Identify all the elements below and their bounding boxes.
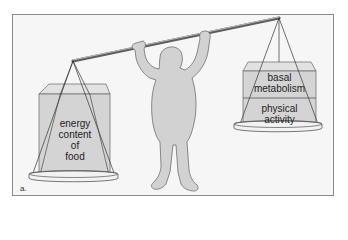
person-silhouette bbox=[132, 31, 210, 191]
label-line: food bbox=[40, 151, 110, 162]
label-line: activity bbox=[243, 114, 316, 125]
physical-activity-label: physical activity bbox=[243, 103, 316, 125]
label-line: metabolism bbox=[243, 83, 316, 94]
label-line: content bbox=[40, 129, 110, 140]
label-line: of bbox=[40, 140, 110, 151]
energy-content-label: energy content of food bbox=[40, 118, 110, 162]
label-line: physical bbox=[243, 103, 316, 114]
label-line: energy bbox=[40, 118, 110, 129]
label-line: basal bbox=[243, 72, 316, 83]
panel-label: a. bbox=[20, 184, 27, 193]
basal-metabolism-label: basal metabolism bbox=[243, 72, 316, 94]
